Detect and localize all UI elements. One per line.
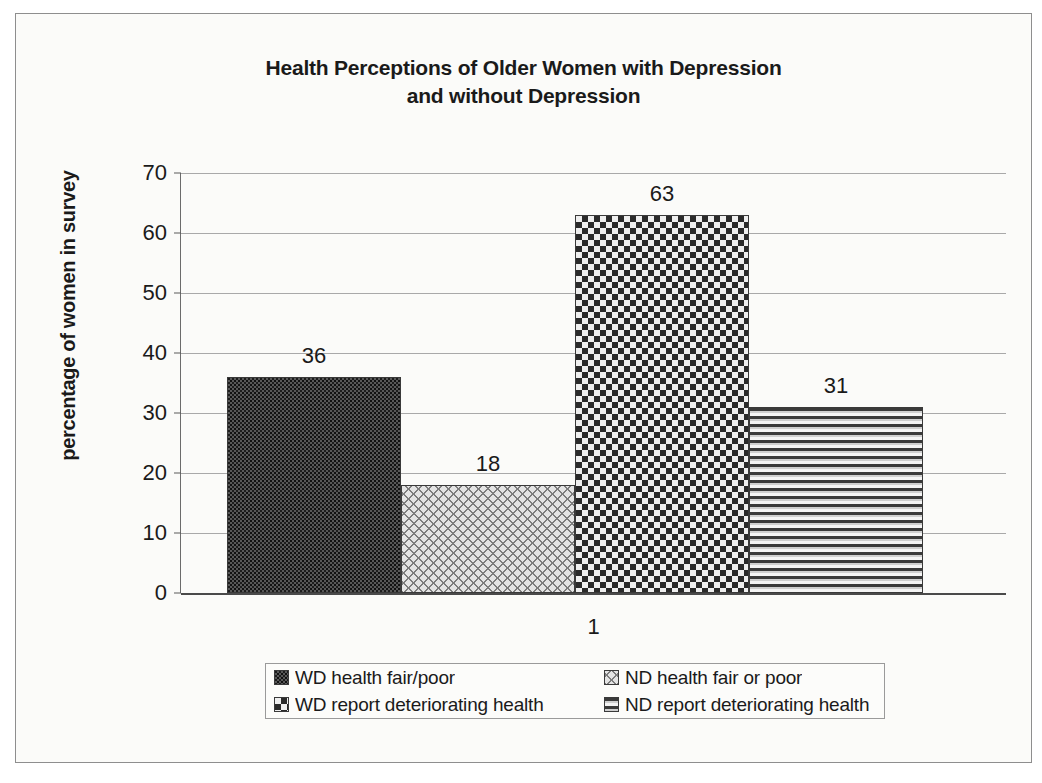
y-axis-tick-label: 20	[143, 460, 167, 486]
y-axis-tick-label: 10	[143, 520, 167, 546]
y-axis-tick-label: 60	[143, 220, 167, 246]
legend-label: ND report deteriorating health	[625, 694, 869, 716]
legend-swatch-icon-checkerboard	[274, 697, 289, 712]
legend-swatch-icon-diagonal-wave	[604, 670, 619, 685]
plot-area: 706050403020100 36186331	[181, 173, 1006, 593]
y-axis-tick-mark	[174, 593, 181, 594]
y-axis-tick-mark	[174, 353, 181, 354]
chart-title-line-1: Health Perceptions of Older Women with D…	[16, 54, 1031, 82]
bar[interactable]	[401, 485, 575, 593]
legend-label: WD report deteriorating health	[295, 694, 544, 716]
legend-swatch-icon-dark-speckle	[274, 670, 289, 685]
y-axis-tick-mark	[174, 233, 181, 234]
y-axis-tick-label: 70	[143, 160, 167, 186]
y-axis-tick-mark	[174, 413, 181, 414]
y-axis-tick-label: 50	[143, 280, 167, 306]
bar[interactable]	[575, 215, 749, 593]
legend-item-wd-report-deteriorating-health[interactable]: WD report deteriorating health	[274, 694, 604, 716]
bar-value-label: 63	[650, 181, 674, 207]
x-axis-category-label: 1	[181, 614, 1006, 640]
chart-legend: WD health fair/poor ND health fair or po…	[265, 663, 885, 719]
y-axis-title: percentage of women in survey	[57, 116, 80, 516]
gridline	[181, 593, 1006, 595]
y-axis-line	[180, 173, 181, 593]
chart-title: Health Perceptions of Older Women with D…	[16, 54, 1031, 110]
legend-item-nd-health-fair-or-poor[interactable]: ND health fair or poor	[604, 667, 876, 689]
chart-title-line-2: and without Depression	[16, 82, 1031, 110]
legend-label: WD health fair/poor	[295, 667, 455, 689]
legend-label: ND health fair or poor	[625, 667, 802, 689]
y-axis-tick-mark	[174, 173, 181, 174]
y-axis-tick-mark	[174, 533, 181, 534]
y-axis-tick-label: 30	[143, 400, 167, 426]
bar-value-label: 36	[302, 343, 326, 369]
y-axis-tick-mark	[174, 293, 181, 294]
y-axis-tick-mark	[174, 473, 181, 474]
bar-value-label: 18	[476, 451, 500, 477]
y-axis-tick-label: 40	[143, 340, 167, 366]
chart-frame: Health Perceptions of Older Women with D…	[15, 13, 1032, 763]
legend-item-wd-health-fair-poor[interactable]: WD health fair/poor	[274, 667, 604, 689]
y-axis-tick-label: 0	[155, 580, 167, 606]
bar-value-label: 31	[824, 373, 848, 399]
bar[interactable]	[227, 377, 401, 593]
legend-swatch-icon-horizontal-stripes	[604, 697, 619, 712]
gridline	[181, 173, 1006, 174]
bar[interactable]	[749, 407, 923, 593]
legend-item-nd-report-deteriorating-health[interactable]: ND report deteriorating health	[604, 694, 876, 716]
